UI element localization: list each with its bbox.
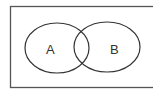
universe-rectangle — [11, 7, 154, 88]
set-a-label: A — [46, 42, 55, 57]
set-b-circle — [74, 22, 140, 72]
set-a-circle — [25, 23, 89, 73]
set-b-label: B — [110, 42, 119, 57]
venn-diagram: A B — [0, 0, 153, 94]
